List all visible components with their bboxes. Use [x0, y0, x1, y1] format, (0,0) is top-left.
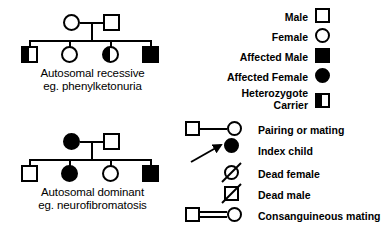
- legend-label-line-2: Carrier: [195, 99, 308, 111]
- child-female-open-circle: [102, 165, 119, 182]
- pairing-line-icon: [183, 118, 253, 140]
- slashed-circle-icon: [183, 162, 253, 184]
- child-male-affected-filled-square: [142, 46, 159, 63]
- legend-label-affected-female: Affected Female: [195, 71, 308, 83]
- child-male-carrier-half-square: [21, 46, 38, 63]
- parent-female-affected-filled-circle: [63, 133, 80, 150]
- open-circle-icon: [315, 28, 330, 43]
- pedigree-caption-dominant: Autosomal dominant eg. neurofibromatosis: [0, 186, 185, 212]
- caption-line-1: Autosomal recessive: [0, 67, 185, 80]
- consanguineous-connector-line-bottom: [200, 216, 227, 218]
- child-female-affected-filled-circle: [61, 165, 78, 182]
- open-square-icon: [315, 8, 330, 23]
- pedigree-figure: Autosomal recessive eg. phenylketonuria …: [0, 0, 391, 229]
- consanguineous-female-circle: [227, 207, 242, 222]
- child-male-affected-filled-square: [142, 165, 159, 182]
- double-pairing-line-icon: [183, 204, 253, 226]
- filled-square-icon: [315, 48, 330, 63]
- consanguineous-male-square: [185, 207, 200, 222]
- caption-line-2: eg. neurofibromatosis: [0, 199, 185, 212]
- caption-line-1: Autosomal dominant: [0, 186, 185, 199]
- caption-line-2: eg. phenylketonuria: [0, 80, 185, 93]
- slashed-square-icon: [183, 183, 253, 205]
- filled-circle-icon: [315, 68, 330, 83]
- parent-male-open-square: [103, 14, 120, 31]
- legend-label-consanguineous-mating: Consanguineous mating: [258, 210, 381, 222]
- legend-label-pairing-or-mating: Pairing or mating: [258, 124, 344, 136]
- pairing-male-square: [185, 121, 200, 136]
- pedigree-autosomal-dominant: Autosomal dominant eg. neurofibromatosis: [0, 125, 185, 229]
- index-child-filled-circle: [224, 138, 239, 153]
- legend-label-female: Female: [195, 31, 308, 43]
- legend-label-dead-female: Dead female: [258, 168, 320, 180]
- child-male-open-square: [21, 165, 38, 182]
- index-arrow-svg: [183, 138, 253, 164]
- sibship-line: [29, 40, 152, 42]
- legend-label-index-child: Index child: [258, 145, 313, 157]
- legend-label-male: Male: [195, 11, 308, 23]
- half-filled-square-icon: [315, 93, 330, 108]
- pedigree-caption-recessive: Autosomal recessive eg. phenylketonuria: [0, 67, 185, 93]
- parent-female-open-circle: [63, 14, 80, 31]
- legend-label-affected-male: Affected Male: [195, 51, 308, 63]
- legend-label-line-1: Heterozygote: [195, 87, 308, 99]
- legend-symbol-key: Male Female Affected Male Affected Femal…: [195, 0, 391, 115]
- legend-label-dead-male: Dead male: [258, 189, 311, 201]
- child-female-open-circle: [61, 46, 78, 63]
- sibship-line: [29, 159, 152, 161]
- pairing-female-circle: [227, 121, 242, 136]
- dead-male-slash: [183, 183, 253, 205]
- index-arrow-icon: [183, 138, 253, 164]
- pairing-connector-line: [200, 128, 227, 130]
- descent-line: [91, 141, 93, 160]
- legend-relationship-key: Pairing or mating Index child Dead femal…: [183, 118, 391, 229]
- dead-female-slash: [183, 162, 253, 184]
- child-female-carrier-half-circle: [102, 46, 119, 63]
- descent-line: [91, 22, 93, 41]
- consanguineous-connector-line-top: [200, 211, 227, 213]
- pedigree-autosomal-recessive: Autosomal recessive eg. phenylketonuria: [0, 0, 185, 100]
- legend-label-heterozygote-carrier: Heterozygote Carrier: [195, 87, 308, 111]
- parent-male-open-square: [103, 133, 120, 150]
